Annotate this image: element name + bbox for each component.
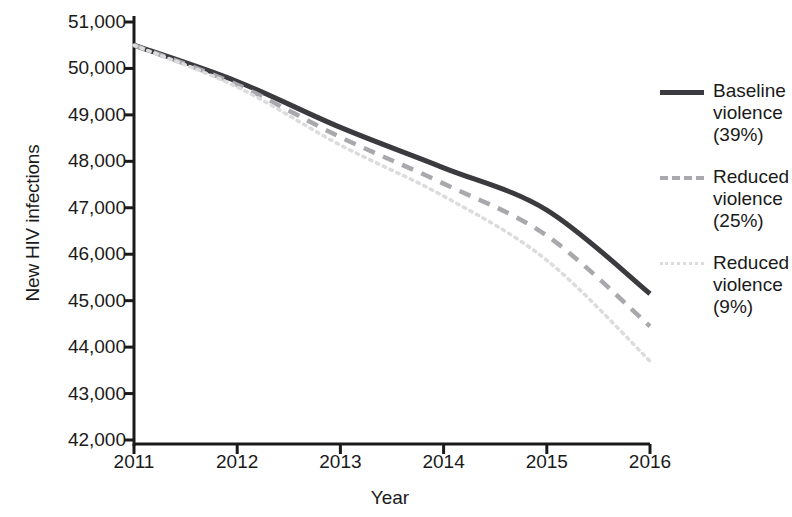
- legend-item-1[interactable]: Baseline violence (39%): [660, 80, 792, 146]
- x-tick-label: 2014: [399, 451, 489, 473]
- x-tick-label: 2013: [295, 451, 385, 473]
- x-axis-title: Year: [130, 487, 650, 509]
- legend-item-2[interactable]: Reduced violence (25%): [660, 166, 792, 232]
- solid-line-swatch: [660, 84, 704, 100]
- x-tick-label: 2015: [502, 451, 592, 473]
- legend-item-label: Reduced violence (25%): [713, 166, 789, 232]
- legend-item-label: Baseline violence (39%): [713, 80, 786, 146]
- legend-item-3[interactable]: Reduced violence (9%): [660, 252, 792, 318]
- dotted-line-swatch: [660, 256, 704, 272]
- x-tick-label: 2012: [192, 451, 282, 473]
- hiv-infections-line-chart: New HIV infections 51,00050,00049,00048,…: [0, 0, 792, 517]
- legend-item-label: Reduced violence (9%): [713, 252, 789, 318]
- x-tick-label: 2016: [605, 451, 695, 473]
- dashed-line-swatch: [660, 170, 704, 186]
- x-tick-label: 2011: [89, 451, 179, 473]
- data-series-layer: [134, 45, 650, 361]
- series-line-3: [134, 45, 650, 361]
- chart-legend: Baseline violence (39%)Reduced violence …: [660, 80, 792, 338]
